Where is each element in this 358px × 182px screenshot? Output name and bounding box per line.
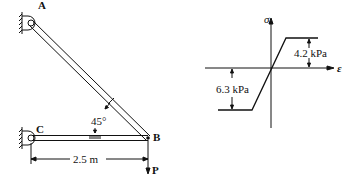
load-label: P	[152, 164, 159, 176]
label-b: B	[153, 131, 161, 143]
joint-b	[146, 136, 150, 140]
angle-label: 45°	[91, 115, 106, 127]
tension-yield-label: 4.2 kPa	[294, 47, 327, 59]
bar-ab	[29, 21, 150, 140]
load-arrow	[146, 140, 150, 174]
stress-strain-diagram	[205, 18, 334, 128]
epsilon-label: ε	[337, 62, 342, 74]
figure: 45° A C B 2.5 m P σ ε 4.2 kPa 6.3 kPa	[0, 0, 358, 182]
sigma-label: σ	[264, 13, 270, 25]
label-a: A	[38, 0, 46, 11]
length-label: 2.5 m	[73, 153, 99, 165]
label-c: C	[36, 123, 44, 135]
compression-yield-label: 6.3 kPa	[216, 83, 249, 95]
